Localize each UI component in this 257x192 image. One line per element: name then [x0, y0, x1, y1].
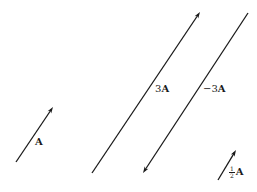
fraction-denominator: 2	[229, 173, 235, 179]
vector-3a-shaft	[92, 14, 198, 173]
vector-half-a-arrowhead-icon	[231, 150, 236, 157]
label-neg-3a-scalar: −3	[203, 83, 218, 94]
label-a-vector: A	[35, 136, 43, 147]
label-half-a: 1 2 A	[229, 166, 244, 179]
vector-3a	[92, 12, 200, 173]
vector-a-shaft	[16, 109, 51, 162]
vector-a	[16, 107, 53, 162]
vector-a-arrowhead-icon	[48, 107, 53, 114]
vector-diagram	[0, 0, 257, 192]
label-3a-vector: A	[161, 83, 169, 94]
vector-3a-arrowhead-icon	[195, 12, 200, 19]
vector-neg-3a-arrowhead-icon	[143, 166, 148, 173]
label-half-a-vector: A	[236, 166, 244, 177]
label-neg-3a-vector: A	[218, 83, 226, 94]
label-neg-3a: −3A	[203, 84, 226, 94]
label-half-a-fraction: 1 2	[229, 166, 235, 179]
label-a: A	[35, 137, 43, 147]
label-3a: 3A	[155, 84, 169, 94]
